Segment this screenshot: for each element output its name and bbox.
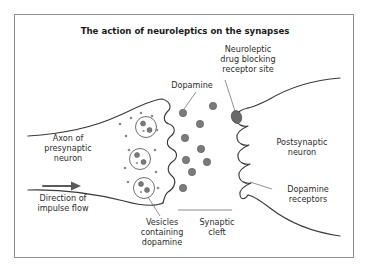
vesicle bbox=[130, 149, 151, 170]
cytoplasm-dot bbox=[156, 129, 159, 132]
vesicle bbox=[134, 178, 155, 199]
dopamine-molecule bbox=[142, 130, 144, 132]
dopamine-molecule bbox=[181, 134, 188, 141]
cytoplasm-dot bbox=[130, 117, 133, 120]
receptors-leader-line bbox=[250, 182, 272, 189]
label-vesicles: Vesicles containing dopamine bbox=[141, 217, 184, 247]
dopamine-molecule bbox=[139, 182, 144, 187]
label-impulse-line1: Direction of bbox=[40, 193, 87, 203]
vesicle-group bbox=[130, 117, 157, 199]
label-axon-line3: neuron bbox=[54, 153, 82, 163]
dopamine-molecule bbox=[179, 184, 186, 191]
label-neuroleptic-line3: receptor site bbox=[222, 64, 273, 74]
dopamine-molecule bbox=[203, 158, 210, 165]
label-dopamine-line1: Dopamine bbox=[171, 80, 213, 90]
dopamine-molecule bbox=[196, 120, 203, 127]
dopamine-molecule bbox=[145, 188, 150, 193]
label-vesicles-line2: containing bbox=[141, 227, 184, 237]
dopamine-leader-line bbox=[184, 92, 196, 109]
postsynaptic-upper-membrane bbox=[248, 78, 340, 108]
neuroleptic-leader-line bbox=[225, 80, 235, 111]
label-axon-line2: presynaptic bbox=[44, 143, 91, 153]
cytoplasm-dot bbox=[154, 149, 157, 152]
label-impulse: Direction of impulse flow bbox=[37, 193, 88, 213]
dopamine-molecule bbox=[141, 160, 146, 165]
cytoplasm-dot bbox=[124, 167, 127, 170]
label-neuroleptic-line1: Neuroleptic bbox=[225, 44, 272, 54]
cytoplasm-dot bbox=[155, 171, 158, 174]
cytoplasm-dot-group bbox=[119, 112, 160, 190]
dopamine-molecule bbox=[197, 145, 204, 152]
cleft-dopamine-group bbox=[179, 102, 216, 191]
dopamine-molecule bbox=[135, 153, 140, 158]
cytoplasm-dot bbox=[119, 123, 122, 126]
label-cleft-line2: cleft bbox=[208, 227, 226, 237]
label-vesicles-line3: dopamine bbox=[142, 237, 182, 247]
synapse-diagram: The action of neuroleptics on the synaps… bbox=[0, 0, 370, 276]
dopamine-molecule bbox=[209, 102, 216, 109]
cytoplasm-dot bbox=[151, 115, 154, 118]
label-neuroleptic-line2: drug blocking bbox=[220, 54, 275, 64]
label-cleft: Synaptic cleft bbox=[199, 217, 234, 237]
label-axon: Axon of presynaptic neuron bbox=[44, 133, 91, 163]
neuroleptic-drug-molecule bbox=[230, 109, 243, 125]
label-impulse-line2: impulse flow bbox=[37, 203, 88, 213]
dopamine-molecule bbox=[179, 109, 186, 116]
cytoplasm-dot bbox=[140, 112, 143, 115]
dopamine-molecule bbox=[147, 128, 152, 133]
label-postsynaptic: Postsynaptic neuron bbox=[276, 137, 327, 157]
label-vesicles-line1: Vesicles bbox=[146, 217, 178, 227]
dopamine-molecule bbox=[140, 191, 142, 193]
cytoplasm-dot bbox=[125, 135, 128, 138]
label-postsynaptic-line1: Postsynaptic bbox=[276, 137, 327, 147]
impulse-flow-arrow bbox=[43, 182, 81, 191]
dopamine-molecule bbox=[136, 162, 138, 164]
cytoplasm-dot bbox=[128, 149, 131, 152]
label-receptors-line1: Dopamine bbox=[287, 184, 329, 194]
dopamine-molecule bbox=[182, 156, 189, 163]
label-receptors: Dopamine receptors bbox=[287, 184, 329, 204]
label-postsynaptic-line2: neuron bbox=[288, 147, 316, 157]
presynaptic-terminal-face bbox=[162, 99, 177, 203]
cytoplasm-dot bbox=[127, 181, 130, 184]
label-receptors-line2: receptors bbox=[289, 194, 327, 204]
dopamine-molecule bbox=[188, 168, 195, 175]
label-cleft-line1: Synaptic bbox=[199, 217, 234, 227]
dopamine-molecule bbox=[141, 121, 146, 126]
vesicles-leader-line bbox=[148, 197, 160, 216]
label-axon-line1: Axon of bbox=[53, 133, 84, 143]
label-dopamine: Dopamine bbox=[171, 80, 213, 90]
vesicle bbox=[136, 117, 157, 138]
cytoplasm-dot bbox=[157, 187, 160, 190]
label-neuroleptic: Neuroleptic drug blocking receptor site bbox=[220, 44, 275, 74]
figure-root: The action of neuroleptics on the synaps… bbox=[0, 0, 370, 276]
page-title: The action of neuroleptics on the synaps… bbox=[81, 26, 290, 36]
